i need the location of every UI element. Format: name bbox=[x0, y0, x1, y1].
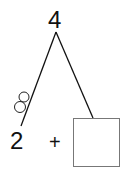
right-branch-line bbox=[56, 32, 93, 118]
left-part-number: 2 bbox=[10, 129, 23, 153]
whole-number: 4 bbox=[48, 8, 61, 32]
answer-box[interactable] bbox=[74, 119, 120, 167]
tally-circle-icon bbox=[15, 102, 26, 113]
plus-sign: + bbox=[49, 132, 61, 152]
tally-circle-icon bbox=[19, 92, 29, 102]
left-branch-line bbox=[21, 32, 56, 126]
